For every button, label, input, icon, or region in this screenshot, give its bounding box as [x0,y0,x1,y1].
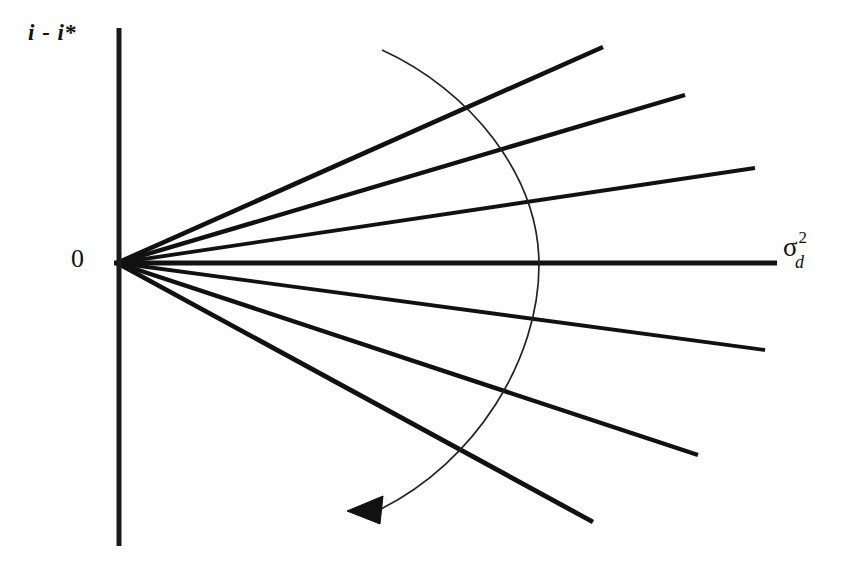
figure-svg [0,0,862,573]
sigma-subscript: d [795,252,804,272]
ray-group [117,47,765,522]
figure-canvas: i - i* 0 σ2d [0,0,862,573]
y-axis-label-base: i - i [28,20,65,45]
rotation-arrow-head [347,496,383,524]
ray-upper-shallow [117,168,755,263]
sigma-superscript: 2 [799,228,808,247]
origin-label: 0 [71,246,84,272]
ray-lower-shallow [117,263,765,350]
ray-upper-steep [117,47,603,263]
x-axis-label: σ2d [783,232,815,265]
y-axis-label: i - i* [28,21,77,44]
rotation-arrow-curve [381,50,539,509]
ray-lower-steep [117,263,593,522]
ray-upper-medium [117,95,685,263]
ray-lower-medium [117,263,698,455]
y-axis-label-star: * [65,20,78,45]
